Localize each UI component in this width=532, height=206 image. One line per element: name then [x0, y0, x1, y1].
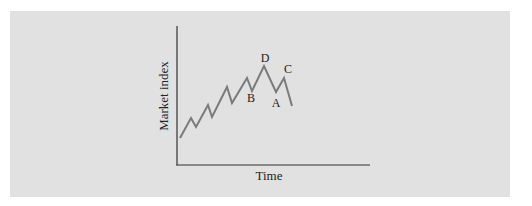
point-label-b: B	[247, 91, 255, 105]
x-axis-label: Time	[256, 168, 283, 183]
market-index-chart: BDCA Market index Time	[0, 0, 532, 206]
y-axis-label: Market index	[156, 61, 171, 131]
point-label-c: C	[284, 62, 292, 76]
point-label-a: A	[272, 96, 281, 110]
point-label-d: D	[261, 51, 270, 65]
